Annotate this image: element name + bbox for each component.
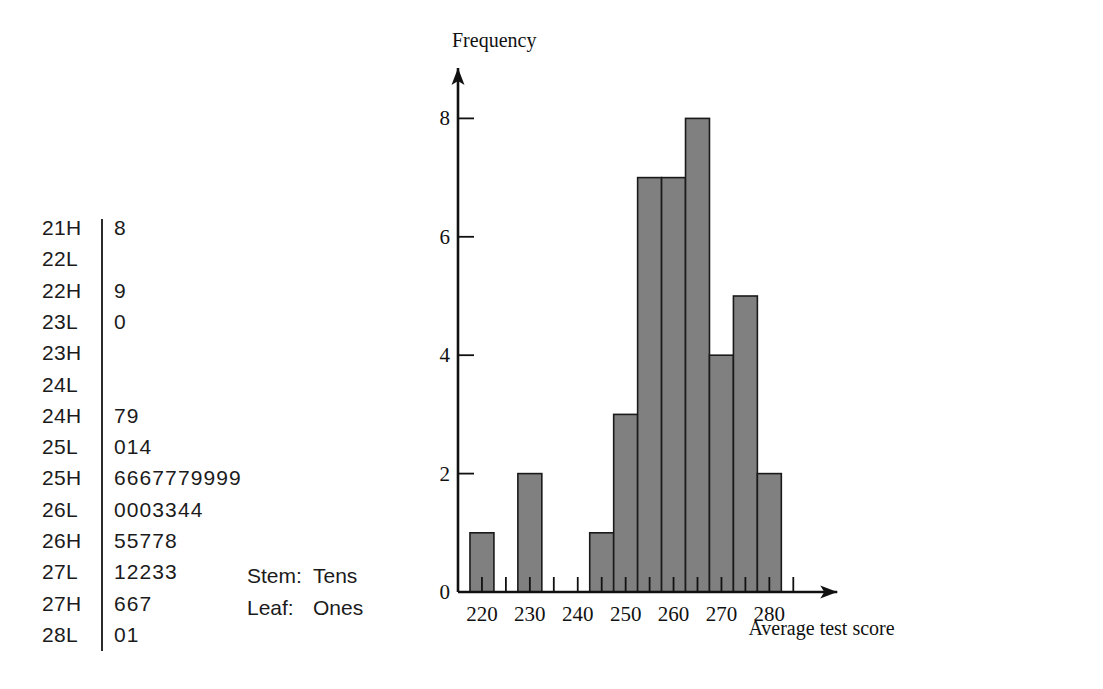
- stem-value: 27L: [42, 556, 94, 588]
- stem-value: 26H: [42, 525, 94, 557]
- y-tick-label: 6: [424, 224, 450, 249]
- y-tick-label: 0: [424, 580, 450, 605]
- x-tick-label: 240: [562, 602, 594, 627]
- histogram-bar: [757, 474, 781, 592]
- stem-value: 23H: [42, 337, 94, 369]
- histogram-svg: [430, 0, 1103, 689]
- histogram-bar: [709, 355, 733, 592]
- y-axis-title: Frequency: [452, 29, 536, 52]
- stem-value: 24L: [42, 369, 94, 401]
- leaf-values: 6667779999: [114, 462, 242, 494]
- x-tick-label: 280: [754, 602, 786, 627]
- stem-value: 21H: [42, 212, 94, 244]
- stem-value: 25L: [42, 431, 94, 463]
- legend-value: Ones: [313, 592, 363, 624]
- leaf-values: 667: [114, 588, 152, 620]
- y-tick-label: 2: [424, 461, 450, 486]
- x-tick-label: 270: [706, 602, 738, 627]
- leaf-values: 0: [114, 306, 127, 338]
- x-tick-label: 260: [658, 602, 690, 627]
- y-tick-label: 8: [424, 106, 450, 131]
- stem-value: 28L: [42, 619, 94, 651]
- histogram-bar: [686, 118, 710, 592]
- histogram-bar: [733, 296, 757, 592]
- histogram-bar: [638, 178, 662, 592]
- stem-value: 22H: [42, 275, 94, 307]
- histogram-bar: [614, 414, 638, 592]
- histogram-bar: [518, 474, 542, 592]
- leaf-values: 0003344: [114, 494, 203, 526]
- y-tick-label: 4: [424, 343, 450, 368]
- stem-value: 25H: [42, 462, 94, 494]
- x-tick-label: 230: [514, 602, 546, 627]
- leaf-values: 55778: [114, 525, 178, 557]
- leaf-values: 12233: [114, 556, 178, 588]
- legend-key: Leaf:: [247, 592, 309, 624]
- stem-and-leaf-display: 21H822L22H923L023H24L24H7925L01425H66677…: [0, 0, 430, 689]
- stem-leaf-divider: [101, 219, 103, 651]
- leaf-values: 014: [114, 431, 152, 463]
- x-tick-label: 220: [466, 602, 498, 627]
- leaf-values: 01: [114, 619, 140, 651]
- leaf-values: 9: [114, 275, 127, 307]
- histogram-bars: [470, 118, 781, 592]
- leaf-values: 8: [114, 212, 127, 244]
- stem-value: 22L: [42, 243, 94, 275]
- histogram-bar: [662, 178, 686, 592]
- stem-value: 24H: [42, 400, 94, 432]
- leaf-values: 79: [114, 400, 140, 432]
- legend-value: Tens: [313, 560, 357, 592]
- figure-page: 21H822L22H923L023H24L24H7925L01425H66677…: [0, 0, 1103, 689]
- stem-value: 27H: [42, 588, 94, 620]
- x-tick-label: 250: [610, 602, 642, 627]
- histogram-chart: Frequency Average test score 02468 22023…: [430, 0, 1103, 689]
- stem-value: 23L: [42, 306, 94, 338]
- stem-value: 26L: [42, 494, 94, 526]
- legend-key: Stem:: [247, 560, 309, 592]
